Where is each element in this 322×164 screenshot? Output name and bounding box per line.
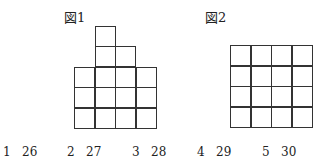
grid-cell [136, 108, 157, 129]
grid-cell [271, 86, 292, 107]
figure1-label: 図1 [64, 11, 85, 25]
grid-cell [115, 67, 136, 88]
grid-cell [271, 45, 292, 66]
grid-cell [136, 87, 157, 108]
grid-cell [74, 108, 95, 129]
grid-cell [271, 107, 292, 128]
grid-cell [292, 86, 313, 107]
grid-cell [95, 46, 116, 67]
choice-1[interactable]: 1 26 [3, 145, 37, 159]
grid-cell [136, 67, 157, 88]
grid-cell [292, 66, 313, 87]
grid-cell [115, 46, 136, 67]
grid-cell [74, 67, 95, 88]
grid-cell [95, 108, 116, 129]
grid-cell [230, 45, 251, 66]
grid-cell [95, 87, 116, 108]
grid-cell [230, 86, 251, 107]
choice-3[interactable]: 3 28 [132, 145, 166, 159]
grid-cell [251, 45, 272, 66]
grid-cell [251, 107, 272, 128]
choice-4[interactable]: 4 29 [197, 145, 231, 159]
grid-cell [115, 108, 136, 129]
grid-cell [115, 87, 136, 108]
grid-cell [230, 107, 251, 128]
choice-2[interactable]: 2 27 [67, 145, 101, 159]
grid-cell [292, 107, 313, 128]
figure2-label: 図2 [205, 11, 226, 25]
grid-cell [74, 87, 95, 108]
grid-cell [95, 26, 116, 47]
grid-cell [95, 67, 116, 88]
grid-cell [271, 66, 292, 87]
grid-cell [292, 45, 313, 66]
grid-cell [251, 86, 272, 107]
choice-5[interactable]: 5 30 [262, 145, 296, 159]
grid-cell [230, 66, 251, 87]
grid-cell [251, 66, 272, 87]
